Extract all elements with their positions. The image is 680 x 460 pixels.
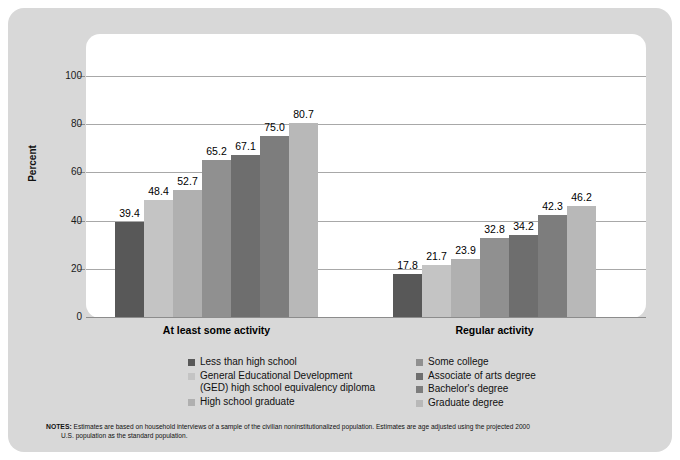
- bar: [480, 238, 509, 317]
- gridline: [86, 124, 646, 125]
- bar: [567, 206, 596, 317]
- y-tick-label: 20: [48, 263, 82, 274]
- y-tick-label: 100: [48, 70, 82, 81]
- legend-swatch-icon: [188, 359, 195, 366]
- group-label: At least some activity: [75, 324, 358, 336]
- legend-label: Less than high school: [200, 356, 297, 369]
- bar: [289, 123, 318, 317]
- bar: [393, 274, 422, 317]
- legend-label: Some college: [428, 356, 489, 369]
- notes-label: NOTES:: [46, 423, 72, 430]
- bar: [144, 200, 173, 317]
- y-axis-title: Percent: [27, 134, 38, 194]
- legend-column-left: Less than high schoolGeneral Educational…: [188, 356, 438, 409]
- bar-value-label: 46.2: [561, 191, 602, 203]
- legend-item[interactable]: Associate of arts degree: [416, 370, 591, 383]
- bar: [451, 259, 480, 317]
- bar: [202, 160, 231, 317]
- legend-swatch-icon: [188, 373, 195, 380]
- y-tick-label: 0: [48, 311, 82, 322]
- bar: [231, 155, 260, 317]
- legend-item[interactable]: Bachelor's degree: [416, 383, 591, 396]
- bar-value-label: 80.7: [283, 108, 324, 120]
- legend-swatch-icon: [188, 399, 195, 406]
- legend-column-right: Some collegeAssociate of arts degreeBach…: [416, 356, 591, 410]
- notes-line-1: Estimates are based on household intervi…: [74, 423, 530, 430]
- legend-label: General Educational Development (GED) hi…: [200, 370, 375, 395]
- legend-swatch-icon: [416, 373, 423, 380]
- legend-label: Associate of arts degree: [428, 370, 536, 383]
- y-tick-label: 80: [48, 118, 82, 129]
- gridline: [86, 172, 646, 173]
- legend-item[interactable]: Less than high school: [188, 356, 438, 369]
- group-label: Regular activity: [353, 324, 636, 336]
- bar: [115, 222, 144, 317]
- x-axis-baseline: [86, 317, 646, 318]
- bar: [509, 235, 538, 317]
- bar: [538, 215, 567, 317]
- y-axis: 100806040200: [38, 34, 82, 318]
- legend-label: Graduate degree: [428, 397, 504, 410]
- gridline: [86, 76, 646, 77]
- legend-item[interactable]: Graduate degree: [416, 397, 591, 410]
- notes-line-2: U.S. population as the standard populati…: [61, 431, 646, 440]
- bar: [173, 190, 202, 317]
- y-tick-label: 40: [48, 215, 82, 226]
- chart-notes: NOTES: Estimates are based on household …: [46, 422, 646, 440]
- legend-item[interactable]: Some college: [416, 356, 591, 369]
- legend-swatch-icon: [416, 359, 423, 366]
- bar: [422, 265, 451, 317]
- chart-legend: Less than high schoolGeneral Educational…: [188, 356, 588, 412]
- legend-item[interactable]: General Educational Development (GED) hi…: [188, 370, 438, 395]
- bar: [260, 136, 289, 317]
- legend-label: Bachelor's degree: [428, 383, 508, 396]
- legend-swatch-icon: [416, 400, 423, 407]
- y-tick-label: 60: [48, 166, 82, 177]
- legend-item[interactable]: High school graduate: [188, 396, 438, 409]
- figure-card: 100806040200 Percent 39.448.452.765.267.…: [8, 8, 672, 452]
- legend-swatch-icon: [416, 386, 423, 393]
- legend-label: High school graduate: [200, 396, 295, 409]
